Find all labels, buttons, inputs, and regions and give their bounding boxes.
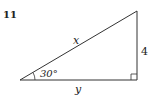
right-angle-marker bbox=[131, 74, 137, 80]
angle-arc bbox=[33, 73, 35, 81]
triangle-diagram: 11 x 4 30° y bbox=[0, 0, 150, 111]
hypotenuse-label: x bbox=[73, 34, 80, 47]
problem-number: 11 bbox=[3, 9, 17, 20]
angle-label: 30° bbox=[40, 68, 58, 79]
adjacent-side-label: y bbox=[74, 83, 82, 96]
opposite-side-label: 4 bbox=[141, 45, 148, 58]
